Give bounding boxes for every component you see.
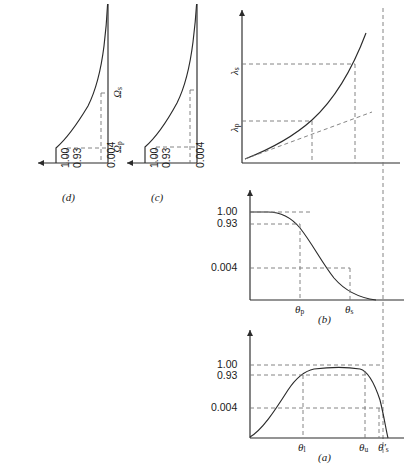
panel-b-xtick-theta-p: θp — [295, 304, 304, 316]
panel-c-main-curve — [245, 33, 366, 159]
panel-d-ylabel-omega-p: Ωp — [112, 141, 124, 153]
panel-b-ytick-0004: 0.004 — [211, 262, 237, 273]
panel-b-id: (b) — [318, 314, 331, 325]
omega-s-subscript: s — [115, 87, 124, 90]
panel-c-ylabel-lambda-s: λs — [229, 67, 241, 75]
panel-a-id: (a) — [318, 452, 331, 463]
panel-a-xtick-theta-s-prime: θ′s — [378, 442, 389, 454]
panel-d-group — [38, 4, 108, 163]
omega-s-glyph: Ω — [111, 90, 123, 98]
lambda-s-subscript: s — [232, 67, 241, 70]
panel-b-ytick-093: 0.93 — [217, 218, 237, 229]
lambda-s-glyph: λ — [228, 70, 240, 75]
panel-c-xtick-100: 1.00 — [149, 148, 160, 168]
theta-s-subscript: s — [350, 307, 353, 316]
panel-d-ylabel-omega-s: Ωs — [112, 87, 124, 98]
lambda-p-glyph: λ — [228, 127, 240, 132]
theta-p-subscript: p — [300, 307, 304, 316]
panel-c-ylabel-lambda-p: λp — [229, 123, 241, 132]
panel-a-curve — [250, 368, 388, 439]
panel-topright-dashes — [242, 8, 383, 455]
panel-a-group — [250, 330, 404, 438]
panel-a-dashes — [250, 365, 383, 438]
theta-u-subscript: u — [364, 445, 368, 454]
panel-topright-group — [242, 10, 400, 163]
panel-a-xtick-theta-l: θl — [298, 442, 306, 454]
panel-d-xtick-093: 0.93 — [72, 148, 83, 168]
panel-a-ytick-093: 0.93 — [217, 370, 237, 381]
panel-d-xtick-100: 1.00 — [60, 148, 71, 168]
panel-c-id: (c) — [151, 192, 163, 203]
panel-c-curve — [145, 4, 197, 163]
panel-c-group — [127, 4, 197, 163]
panel-b-dashes — [250, 212, 350, 300]
omega-p-subscript: p — [115, 141, 124, 145]
panel-d-id: (d) — [62, 192, 75, 203]
panel-b-group — [250, 190, 404, 300]
panel-a-xtick-theta-u: θu — [359, 442, 368, 454]
panel-b-curve — [250, 212, 376, 300]
figure-vector-layer — [0, 0, 414, 465]
panel-c-xtick-0004: 0.004 — [195, 142, 206, 168]
panel-b-ytick-100: 1.00 — [217, 206, 237, 217]
panel-c-xtick-093: 0.93 — [161, 148, 172, 168]
panel-b-xtick-theta-s: θs — [345, 304, 353, 316]
panel-d-curve — [56, 4, 108, 163]
theta-l-subscript: l — [303, 445, 305, 454]
figure-canvas: 1.00 0.93 0.004 Ωs Ωp (d) 1.00 0.93 0.00… — [0, 0, 414, 465]
theta-s-prime-glyph: θ′ — [378, 441, 386, 453]
panel-a-ytick-0004: 0.004 — [211, 402, 237, 413]
lambda-p-subscript: p — [232, 123, 241, 127]
omega-p-glyph: Ω — [111, 145, 123, 153]
panel-a-ytick-100: 1.00 — [217, 359, 237, 370]
theta-s-prime-subscript: s — [386, 445, 389, 454]
panel-c-reference-line — [245, 112, 372, 159]
